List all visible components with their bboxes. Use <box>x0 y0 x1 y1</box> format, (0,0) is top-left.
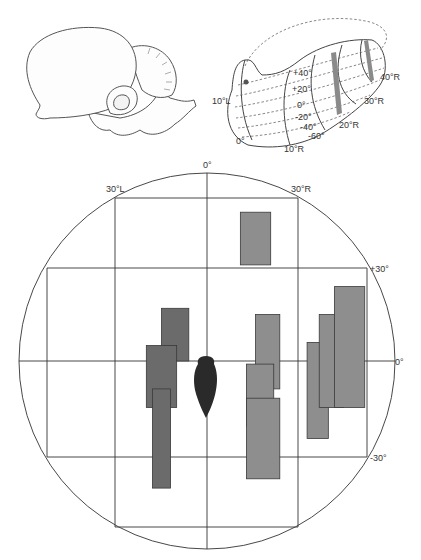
receptive-field-right-6 <box>246 398 279 479</box>
tectum-label-minus20: -20° <box>295 112 312 122</box>
visual-field-map: 0° 30°L 30°R +30° 0° -30° <box>19 160 404 549</box>
label-30L: 30°L <box>106 184 125 194</box>
label-minus30: -30° <box>370 453 387 463</box>
tectum-meridian-10R <box>284 70 290 145</box>
tectum-stripe-40R <box>364 40 374 82</box>
eye-inner <box>114 95 130 110</box>
brain-illustration: +40° +20° 0° -20° -40° -60° 10°L 0° 10°R… <box>0 0 421 560</box>
receptive-fields <box>146 212 364 488</box>
tectum-label-20R: 20°R <box>339 120 360 130</box>
tectum-label-0: 0° <box>297 100 306 110</box>
label-top-0: 0° <box>203 160 212 170</box>
tectum-label-minus60: -60° <box>308 131 325 141</box>
tectum-label-30R: 30°R <box>364 96 385 106</box>
receptive-field-right-3 <box>240 212 270 265</box>
tectum-label-10L: 10°L <box>212 96 231 106</box>
tectum-label-40R: 40°R <box>380 72 401 82</box>
tectum-label-10R: 10°R <box>284 144 305 154</box>
label-0-right: 0° <box>395 357 404 367</box>
tectum-meridian-30R <box>338 45 356 104</box>
tectum-dot <box>244 80 249 85</box>
receptive-field-left-2 <box>152 389 170 488</box>
tectum-label-plus20: +20° <box>292 84 311 94</box>
label-30R: 30°R <box>291 184 312 194</box>
tectum-label-plus40: +40° <box>293 68 312 78</box>
brain-drawing <box>27 27 196 135</box>
fish-icon <box>194 356 217 418</box>
tectum-map: +40° +20° 0° -20° -40° -60° 10°L 0° 10°R… <box>212 19 401 154</box>
tectum-label-0az: 0° <box>236 136 245 146</box>
label-plus30: +30° <box>370 264 389 274</box>
tectum-meridian-20R <box>311 55 325 130</box>
tectum-inner-curve <box>241 60 252 140</box>
receptive-field-right-9 <box>334 287 364 408</box>
